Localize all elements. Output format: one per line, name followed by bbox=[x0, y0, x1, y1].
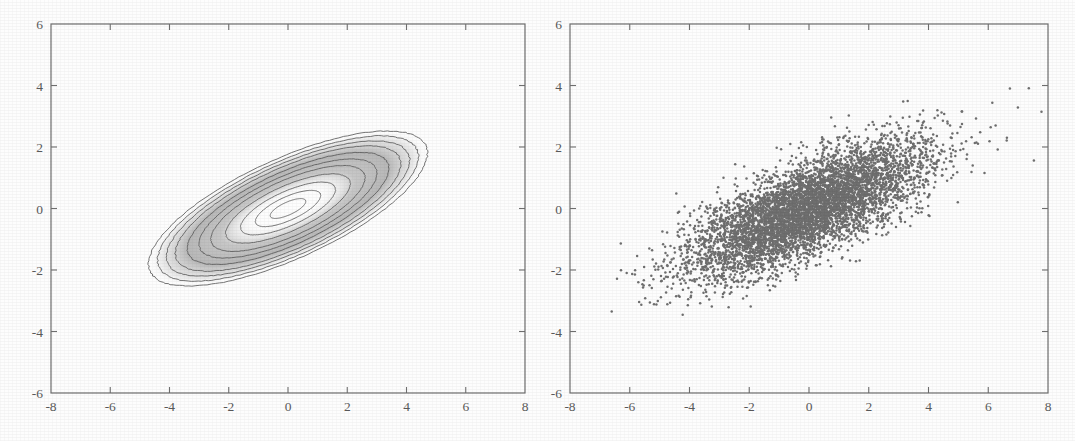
x-tick-label: -6 bbox=[105, 399, 116, 414]
x-tick-label: -2 bbox=[223, 399, 234, 414]
scatter-axes: -8-6-4-202468-6-4-20246 bbox=[537, 0, 1075, 441]
x-tick-label: -4 bbox=[684, 399, 695, 414]
x-tick-label: 0 bbox=[285, 399, 292, 414]
y-tick-label: -2 bbox=[32, 263, 43, 278]
y-tick-label: -6 bbox=[551, 386, 562, 401]
x-tick-label: -8 bbox=[45, 399, 56, 414]
x-tick-label: -6 bbox=[624, 399, 635, 414]
x-tick-label: 4 bbox=[403, 399, 410, 414]
density-core-shading bbox=[129, 100, 446, 317]
x-tick-label: 4 bbox=[925, 399, 932, 414]
y-tick-label: 0 bbox=[555, 202, 562, 217]
contour-plot-panel: -8-6-4-202468-6-4-20246 bbox=[0, 0, 537, 441]
y-tick-label: 2 bbox=[555, 140, 562, 155]
y-tick-label: 4 bbox=[555, 79, 562, 94]
y-tick-label: -6 bbox=[32, 386, 43, 401]
x-tick-label: -2 bbox=[744, 399, 755, 414]
y-tick-label: -4 bbox=[551, 325, 562, 340]
y-tick-label: -4 bbox=[32, 325, 43, 340]
y-tick-label: 6 bbox=[36, 17, 43, 32]
x-tick-label: 2 bbox=[865, 399, 872, 414]
x-tick-label: 6 bbox=[985, 399, 992, 414]
y-tick-label: 2 bbox=[36, 140, 43, 155]
scatter-points bbox=[610, 87, 1042, 316]
x-tick-label: -4 bbox=[164, 399, 175, 414]
contour-axes: -8-6-4-202468-6-4-20246 bbox=[0, 0, 537, 441]
two-panel-gaussian-figure: -8-6-4-202468-6-4-20246 -8-6-4-202468-6-… bbox=[0, 0, 1075, 441]
scatter-plot-panel: -8-6-4-202468-6-4-20246 bbox=[537, 0, 1075, 441]
y-tick-label: 0 bbox=[36, 202, 43, 217]
y-tick-label: 6 bbox=[555, 17, 562, 32]
x-tick-label: 0 bbox=[806, 399, 813, 414]
x-tick-label: 2 bbox=[344, 399, 351, 414]
x-tick-label: 8 bbox=[522, 399, 529, 414]
y-tick-label: 4 bbox=[36, 79, 43, 94]
x-tick-label: 8 bbox=[1045, 399, 1052, 414]
y-tick-label: -2 bbox=[551, 263, 562, 278]
x-tick-label: 6 bbox=[462, 399, 469, 414]
x-tick-label: -8 bbox=[564, 399, 575, 414]
